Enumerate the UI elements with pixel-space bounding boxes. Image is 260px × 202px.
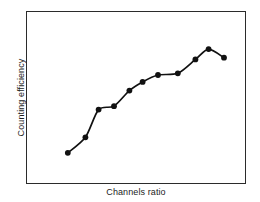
plot-area bbox=[26, 11, 246, 184]
data-point bbox=[111, 103, 117, 109]
x-axis-label: Channels ratio bbox=[26, 187, 246, 197]
data-point bbox=[96, 107, 102, 113]
data-point bbox=[206, 46, 212, 52]
y-axis-label: Counting efficiency bbox=[14, 11, 28, 184]
chart-figure: Counting efficiency Channels ratio bbox=[0, 0, 260, 202]
data-line-quench-curve bbox=[68, 49, 224, 153]
data-point bbox=[221, 55, 227, 61]
data-point bbox=[140, 79, 146, 85]
data-point bbox=[155, 72, 161, 78]
data-point bbox=[83, 134, 89, 140]
data-point bbox=[193, 57, 199, 63]
data-point bbox=[65, 150, 71, 156]
data-point bbox=[127, 88, 133, 94]
data-point-markers bbox=[65, 46, 227, 156]
data-point bbox=[175, 70, 181, 76]
